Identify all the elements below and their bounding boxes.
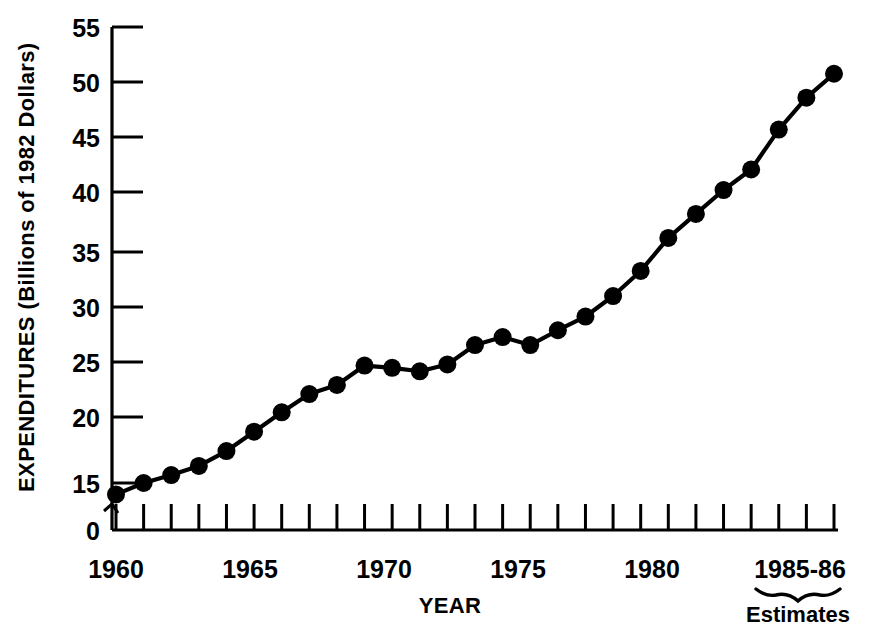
data-point-1976 bbox=[549, 321, 567, 339]
y-tick-label-25: 25 bbox=[72, 349, 100, 377]
data-point-1972 bbox=[438, 355, 456, 373]
data-point-1982 bbox=[715, 181, 733, 199]
data-point-1978 bbox=[604, 287, 622, 305]
x-tick-label-1980: 1980 bbox=[624, 555, 680, 583]
data-point-1981 bbox=[687, 205, 705, 223]
data-point-1961 bbox=[135, 474, 153, 492]
data-point-1984 bbox=[770, 121, 788, 139]
data-point-1986 bbox=[825, 65, 843, 83]
data-point-1975 bbox=[521, 336, 539, 354]
y-tick-label-30: 30 bbox=[72, 294, 100, 322]
expenditures-line-chart: 55 50 45 40 35 30 25 20 15 0 EXPENDITURE… bbox=[0, 0, 869, 628]
x-tick-label-1965: 1965 bbox=[222, 555, 278, 583]
estimates-note-label: Estimates bbox=[746, 602, 850, 627]
y-tick-label-0: 0 bbox=[86, 517, 100, 545]
data-point-1966 bbox=[273, 403, 291, 421]
y-axis-title: EXPENDITURES (Billions of 1982 Dollars) bbox=[14, 42, 39, 492]
data-point-1960 bbox=[107, 485, 125, 503]
data-point-1968 bbox=[328, 376, 346, 394]
y-tick-label-15: 15 bbox=[72, 470, 100, 498]
y-tick-label-50: 50 bbox=[72, 69, 100, 97]
y-tick-label-20: 20 bbox=[72, 404, 100, 432]
x-tick-label-1985-86: 1985-86 bbox=[754, 555, 846, 583]
data-point-1969 bbox=[356, 357, 374, 375]
data-point-1962 bbox=[162, 466, 180, 484]
data-point-1964 bbox=[217, 442, 235, 460]
data-point-1963 bbox=[190, 457, 208, 475]
data-point-1979 bbox=[632, 262, 650, 280]
data-point-1983 bbox=[742, 161, 760, 179]
data-point-1971 bbox=[411, 362, 429, 380]
data-point-1977 bbox=[576, 308, 594, 326]
y-tick-label-45: 45 bbox=[72, 124, 100, 152]
data-point-1985 bbox=[797, 89, 815, 107]
x-axis-title: YEAR bbox=[419, 593, 482, 618]
data-point-1970 bbox=[383, 359, 401, 377]
data-point-1973 bbox=[466, 336, 484, 354]
y-tick-label-55: 55 bbox=[72, 14, 100, 42]
data-point-1974 bbox=[494, 328, 512, 346]
x-tick-label-1975: 1975 bbox=[490, 555, 546, 583]
data-point-1967 bbox=[300, 385, 318, 403]
data-point-1980 bbox=[659, 229, 677, 247]
x-tick-label-1970: 1970 bbox=[356, 555, 412, 583]
data-point-1965 bbox=[245, 423, 263, 441]
y-tick-label-40: 40 bbox=[72, 179, 100, 207]
chart-container: 55 50 45 40 35 30 25 20 15 0 EXPENDITURE… bbox=[0, 0, 869, 628]
y-tick-label-35: 35 bbox=[72, 239, 100, 267]
x-tick-label-1960: 1960 bbox=[88, 555, 144, 583]
chart-background bbox=[0, 0, 869, 628]
